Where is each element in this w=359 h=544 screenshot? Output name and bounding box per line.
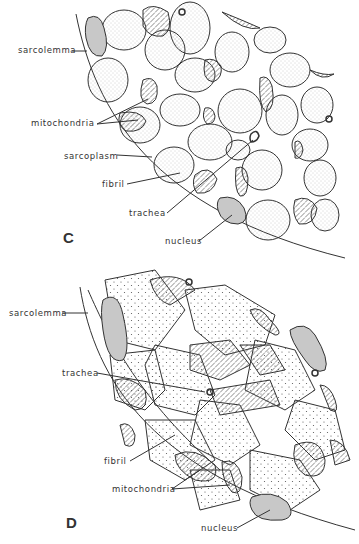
label-d-sarcolemma: sarcolemma [9,308,67,318]
muscle-cross-section-illustration [0,0,359,544]
label-d-trachea: trachea [62,368,99,378]
label-c-sarcoplasm: sarcoplasm [64,151,119,161]
panel-c-diagram [76,2,345,258]
label-c-trachea: trachea [129,208,166,218]
label-c-nucleus: nucleus [165,236,202,246]
label-c-mitochondria: mitochondria [31,118,94,128]
label-c-sarcolemma: sarcolemma [18,45,76,55]
panel-c-letter: C [63,229,74,246]
label-c-fibril: fibril [102,179,125,189]
label-d-mitochondria: mitochondria [112,484,175,494]
label-d-fibril: fibril [104,456,127,466]
panel-d-letter: D [66,514,77,531]
label-d-nucleus: nucleus [201,523,238,533]
